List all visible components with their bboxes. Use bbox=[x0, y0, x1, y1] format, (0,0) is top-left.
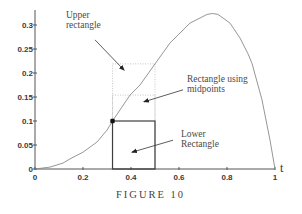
lower-rectangle-label: Rectangle bbox=[181, 139, 219, 149]
y-tick-label: 0.3 bbox=[22, 21, 34, 30]
upper-rectangle-label: rectangle bbox=[66, 20, 101, 30]
midpoint-rectangle bbox=[113, 95, 155, 169]
x-tick-label: 0.8 bbox=[221, 173, 233, 182]
x-axis-label: t bbox=[280, 161, 284, 175]
figure: 00.20.40.60.8100.050.10.150.20.250.3 Upp… bbox=[0, 0, 302, 214]
y-tick-label: 0.1 bbox=[22, 117, 34, 126]
y-tick-label: 0.25 bbox=[17, 45, 33, 54]
midpoint-rectangle-label: Rectangle using bbox=[187, 74, 248, 84]
solid-rectangles bbox=[113, 121, 155, 169]
lower-rectangle-label: Lower bbox=[181, 129, 207, 139]
marker-dot-icon bbox=[110, 119, 114, 123]
y-tick-label: 0.05 bbox=[17, 141, 33, 150]
midpoint-rectangle-label: midpoints bbox=[187, 84, 225, 94]
arrow-icon bbox=[132, 140, 173, 152]
upper-rectangle-label: Upper bbox=[66, 10, 91, 20]
x-tick-label: 0.6 bbox=[173, 173, 185, 182]
figure-caption: FIGURE 10 bbox=[116, 189, 185, 200]
x-tick-label: 1 bbox=[273, 173, 278, 182]
x-tick-label: 0 bbox=[33, 173, 38, 182]
x-tick-label: 0.4 bbox=[125, 173, 137, 182]
y-tick-label: 0.15 bbox=[17, 93, 33, 102]
point-marker bbox=[110, 119, 114, 123]
x-tick-label: 0.2 bbox=[77, 173, 89, 182]
annotations: UpperrectangleRectangle usingmidpointsLo… bbox=[66, 10, 248, 152]
dotted-rectangles bbox=[113, 64, 155, 169]
y-tick-label: 0 bbox=[29, 165, 34, 174]
y-tick-label: 0.2 bbox=[22, 69, 34, 78]
arrow-icon bbox=[95, 40, 124, 70]
chart: 00.20.40.60.8100.050.10.150.20.250.3 Upp… bbox=[0, 0, 302, 214]
lower-rectangle bbox=[113, 121, 155, 169]
upper-rectangle bbox=[113, 64, 155, 169]
arrow-icon bbox=[144, 90, 183, 102]
